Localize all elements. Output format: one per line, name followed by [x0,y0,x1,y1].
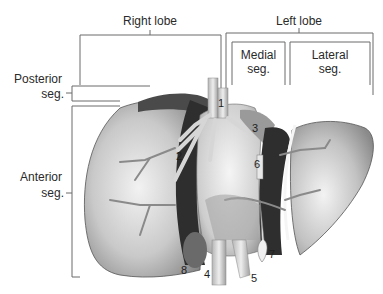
right-lobe-bracket [80,35,221,98]
anterior-seg-label-line2: seg. [0,186,64,200]
gallbladder [183,232,207,268]
right-lobe-label: Right lobe [120,14,180,28]
liver-segment-diagram: Right lobe Left lobe Medial seg. Lateral… [0,0,383,294]
callout-3: 3 [252,122,258,134]
callout-2: 2 [176,150,182,162]
medial-seg-label-line2: seg. [232,62,285,76]
liver-illustration [0,0,383,294]
lateral-seg-label-line2: seg. [290,62,370,76]
anterior-seg-label-line1: Anterior [0,170,62,184]
callout-5: 5 [251,272,257,284]
callout-4: 4 [204,268,210,280]
ivc-bottom [212,240,226,285]
ivc-top [208,78,218,118]
posterior-seg-label-line1: Posterior [0,72,62,86]
callout-1: 1 [218,97,224,109]
posterior-seg-label-line2: seg. [0,87,64,101]
callout-8: 8 [181,264,187,276]
callout-7: 7 [269,248,275,260]
lateral-seg-label-line1: Lateral [290,48,370,62]
left-lobe-shape [290,121,373,255]
callout-6: 6 [254,158,260,170]
left-lobe-label: Left lobe [268,14,330,28]
medial-seg-label-line1: Medial [232,48,285,62]
posterior-seg-bracket [72,86,150,101]
